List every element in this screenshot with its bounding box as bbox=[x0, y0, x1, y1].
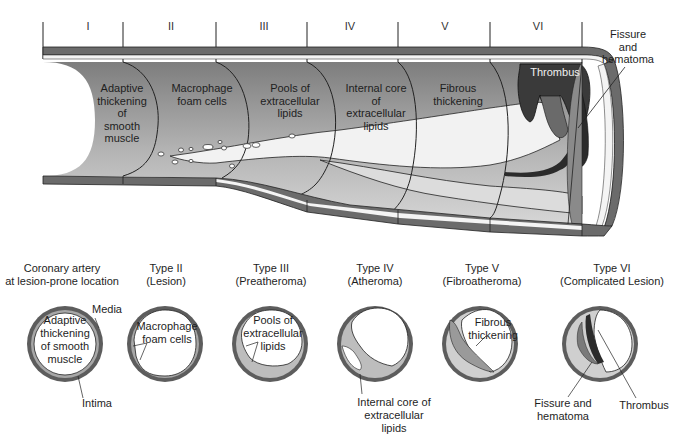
stage-numeral-v: V bbox=[435, 20, 455, 32]
stage-label-ii: Macrophage foam cells bbox=[166, 82, 238, 107]
cross-section-type-vi bbox=[562, 306, 638, 398]
callout-thrombus: Thrombus bbox=[612, 399, 676, 412]
cross-title-type-vi: Type VI (Complicated Lesion) bbox=[548, 262, 676, 288]
callout-fissure-hematoma: Fissure and hematoma bbox=[526, 397, 600, 423]
cross-inner-type-iii: Pools of extracellular lipids bbox=[238, 314, 308, 353]
cross-inner-type-ii: Macrophage foam cells bbox=[134, 320, 200, 346]
cross-title-type-iv: Type IV (Atheroma) bbox=[330, 262, 420, 288]
stage-numeral-iv: IV bbox=[340, 20, 360, 32]
cross-title-type-v: Type V (Fibroatheroma) bbox=[432, 262, 532, 288]
cross-inner-normal: Adaptive thickening of smooth muscle bbox=[32, 314, 98, 366]
cross-inner-type-v: Fibrous thickening bbox=[462, 316, 524, 342]
stage-label-vi: Thrombus bbox=[522, 66, 588, 79]
fissure-hematoma-label: Fissure and hematoma bbox=[598, 28, 658, 66]
stage-label-v: Fibrous thickening bbox=[425, 82, 491, 107]
callout-intima: Intima bbox=[82, 397, 122, 410]
callout-internal-core: Internal core of extracellular lipids bbox=[344, 396, 444, 435]
atherosclerosis-diagram: I II III IV V VI Adaptive thickening of … bbox=[0, 0, 679, 439]
cross-title-type-ii: Type II (Lesion) bbox=[128, 262, 204, 288]
stage-numeral-vi: VI bbox=[526, 20, 550, 32]
stage-numeral-i: I bbox=[78, 20, 98, 32]
stage-label-iv: Internal core of extracellular lipids bbox=[340, 82, 412, 132]
stage-numeral-iii: III bbox=[254, 20, 274, 32]
vessel-wall-top bbox=[43, 47, 614, 62]
stage-label-iii: Pools of extracellular lipids bbox=[255, 82, 325, 120]
cross-title-type-iii: Type III (Preatheroma) bbox=[226, 262, 316, 288]
stage-label-i: Adaptive thickening of smooth muscle bbox=[92, 82, 152, 145]
stage-numeral-ii: II bbox=[161, 20, 181, 32]
callout-media: Media bbox=[92, 303, 132, 316]
cross-title-normal: Coronary artery at lesion-prone location bbox=[2, 262, 122, 288]
cross-section-type-iv bbox=[337, 306, 413, 394]
